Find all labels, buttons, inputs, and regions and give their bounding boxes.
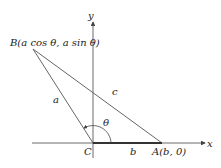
side-b-label: b — [130, 146, 136, 157]
theta-arc — [84, 126, 111, 143]
side-a — [33, 49, 93, 143]
point-b-label: B(a cos θ, a sin θ) — [9, 37, 100, 48]
theta-label: θ — [103, 117, 109, 128]
triangle-law-of-cosines-diagram: y x B(a cos θ, a sin θ) C A(b, 0) a b c … — [0, 0, 221, 168]
point-a-label: A(b, 0) — [151, 146, 186, 157]
y-axis-label: y — [87, 10, 94, 21]
x-axis-label: x — [207, 138, 213, 149]
point-c-label: C — [84, 146, 92, 157]
side-c-label: c — [112, 86, 118, 97]
side-a-label: a — [53, 94, 59, 105]
